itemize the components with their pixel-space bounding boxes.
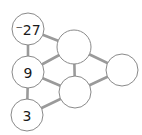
node-n3[interactable]: 3 [11, 99, 43, 131]
node-n2[interactable]: 9 [12, 56, 44, 88]
node-label: ⁻27 [15, 22, 40, 38]
node-n5-empty[interactable] [59, 76, 91, 108]
node-n1[interactable]: ⁻27 [12, 13, 44, 45]
node-circle [106, 54, 138, 86]
node-circle [57, 30, 91, 64]
node-n6-empty[interactable] [106, 54, 138, 86]
node-n4-empty[interactable] [57, 30, 91, 64]
node-label: 9 [24, 65, 33, 81]
node-label: 3 [23, 108, 32, 124]
puzzle-diagram: ⁻27 9 3 [0, 0, 142, 135]
node-circle [59, 76, 91, 108]
